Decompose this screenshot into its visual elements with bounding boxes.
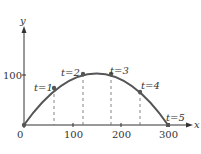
point-t2: [81, 72, 85, 76]
x-tick-label-300: 300: [159, 129, 178, 140]
x-axis-arrow-icon: [186, 123, 193, 128]
label-t4: t=4: [141, 80, 160, 91]
label-t2: t=2: [61, 67, 80, 78]
x-tick-label-100: 100: [64, 129, 83, 140]
y-tick-label-100: 100: [3, 70, 22, 81]
label-t5: t=5: [166, 112, 185, 123]
point-t0: [22, 123, 26, 127]
trajectory-diagram: y x 0 100 200 300 100 t=1 t=2 t=3 t=4 t=…: [0, 0, 201, 154]
y-axis-arrow-icon: [22, 26, 27, 33]
label-t3: t=3: [110, 65, 129, 76]
x-axis-label: x: [194, 119, 200, 130]
origin-label: 0: [17, 129, 23, 140]
point-t5: [166, 123, 170, 127]
label-t1: t=1: [34, 82, 53, 93]
x-tick-label-200: 200: [112, 129, 131, 140]
y-axis-label: y: [19, 15, 26, 26]
